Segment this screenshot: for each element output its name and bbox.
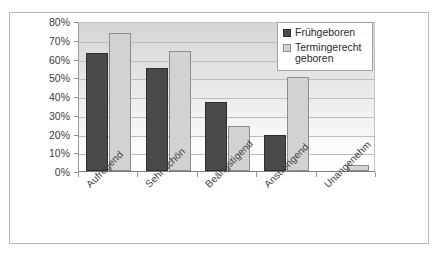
y-axis-tick-label: 10% [26,148,70,158]
legend-label: Termingerecht geboren [295,42,362,65]
x-axis-tick-mark [78,172,79,177]
y-axis-tick-label: 60% [26,55,70,65]
y-axis-tick-label: 80% [26,17,70,27]
legend-label: Frühgeboren [295,27,355,39]
y-axis-tick-label: 70% [26,36,70,46]
legend-item-fruehgeboren: Frühgeboren [283,27,368,39]
x-axis-tick-mark [375,172,376,177]
x-axis-tick-mark [256,172,257,177]
chart-figure: 80%70%60%50%40%30%20%10%0% AufregendSehr… [0,0,442,261]
legend-swatch-icon-light [283,44,291,52]
legend-item-termingerecht-geboren: Termingerecht geboren [283,42,368,65]
x-axis-tick-mark [137,172,138,177]
y-axis-tick-label: 30% [26,111,70,121]
bar [109,33,131,171]
y-axis-tick-label: 40% [26,92,70,102]
bar [86,53,108,171]
y-axis-tick-label: 50% [26,73,70,83]
chart-legend: Frühgeboren Termingerecht geboren [277,22,373,71]
x-axis-tick-mark [316,172,317,177]
legend-swatch-icon-dark [283,29,291,37]
y-axis-tick-label: 0% [26,167,70,177]
x-axis-tick-mark [197,172,198,177]
y-axis-tick-label: 20% [26,130,70,140]
bar [146,68,168,171]
